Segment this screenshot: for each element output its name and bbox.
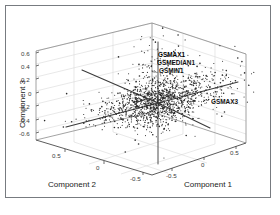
scatter-point: [136, 107, 137, 108]
scatter-point: [135, 124, 136, 125]
scatter-point: [113, 111, 115, 113]
point-label-gsmedian1: GSMEDIAN1: [157, 59, 195, 66]
scatter-point: [146, 98, 147, 99]
scatter-point: [155, 121, 156, 122]
scatter-point: [152, 91, 154, 93]
scatter-point: [199, 55, 200, 56]
scatter-point: [174, 82, 175, 83]
scatter-point: [214, 82, 216, 84]
scatter-point: [161, 115, 163, 117]
scatter-point: [215, 87, 216, 88]
scatter-point: [216, 113, 217, 114]
scatter-point: [150, 98, 151, 99]
scatter-point: [175, 97, 176, 98]
scatter-point: [123, 104, 125, 106]
scatter-point: [176, 82, 177, 83]
scatter-point: [148, 86, 149, 87]
scatter-point: [180, 118, 181, 119]
scatter-point: [83, 100, 84, 101]
scatter-point: [170, 92, 171, 93]
scatter-point: [184, 95, 186, 97]
scatter-point: [174, 113, 175, 114]
scatter-point: [153, 104, 154, 105]
scatter-point: [168, 114, 169, 115]
scatter-point: [187, 93, 189, 95]
scatter-point: [156, 93, 157, 94]
scatter-point: [120, 119, 121, 120]
scatter-point: [139, 68, 140, 69]
scatter-point: [152, 113, 153, 114]
scatter-point: [191, 105, 192, 106]
scatter-point: [149, 131, 150, 132]
axis-lines: [36, 140, 246, 175]
scatter-point: [173, 87, 174, 88]
scatter-point: [181, 88, 182, 89]
scatter-point: [216, 107, 217, 108]
y-tick-1: 0: [96, 164, 99, 171]
scatter-point: [190, 98, 191, 99]
scatter-point: [141, 36, 142, 37]
scatter-point: [143, 64, 144, 65]
scatter-point: [152, 123, 154, 125]
scatter-point: [193, 80, 194, 81]
scatter-point: [186, 107, 187, 108]
scatter-point: [102, 123, 103, 124]
scatter-point: [136, 110, 137, 111]
scatter-point: [144, 76, 145, 77]
scatter-point: [147, 108, 148, 109]
scatter-point: [126, 108, 127, 109]
scatter-point: [153, 93, 154, 94]
scatter-point: [183, 76, 184, 77]
scatter-point: [160, 119, 162, 121]
scatter-point: [120, 117, 122, 119]
scatter-point: [130, 92, 132, 94]
scatter-point: [164, 111, 165, 112]
scatter-point: [165, 80, 166, 81]
scatter-point: [210, 95, 211, 96]
scatter-point: [137, 91, 138, 92]
scatter-point: [155, 87, 156, 88]
scatter-point: [159, 104, 160, 105]
scatter-point: [149, 117, 150, 118]
scatter-point: [169, 91, 171, 93]
scatter-point: [145, 93, 146, 94]
scatter-point: [158, 96, 159, 97]
scatter-point: [173, 104, 174, 105]
scatter-point: [189, 114, 190, 115]
scatter-point: [131, 117, 132, 118]
scatter-point: [167, 99, 168, 100]
scatter-point: [203, 78, 204, 79]
scatter-point: [157, 49, 158, 50]
scatter-point: [200, 91, 202, 93]
scatter-point: [144, 109, 145, 110]
scatter-point: [158, 105, 159, 106]
scatter-point: [117, 113, 118, 114]
scatter-point: [157, 117, 158, 118]
scatter-point: [193, 112, 194, 113]
scatter-point: [177, 96, 178, 97]
scatter-point: [122, 119, 124, 121]
scatter-point: [176, 108, 177, 109]
scatter-point: [181, 98, 182, 99]
scatter-point: [106, 108, 107, 109]
scatter-point: [118, 108, 120, 110]
scatter-point: [174, 103, 175, 104]
scatter-point: [142, 67, 143, 68]
scatter-point: [105, 114, 106, 115]
scatter-point: [148, 91, 149, 92]
scatter-point: [173, 115, 174, 116]
scatter-point: [109, 119, 110, 120]
scatter-point: [63, 126, 65, 128]
scatter-point: [165, 85, 166, 86]
scatter-point: [150, 108, 151, 109]
scatter-point: [167, 78, 169, 80]
scatter-point: [151, 101, 152, 102]
scatter-point: [141, 113, 142, 114]
scatter-point: [152, 97, 154, 99]
scatter-point: [190, 92, 191, 93]
scatter-point: [118, 105, 119, 106]
scatter-point: [192, 95, 194, 97]
scatter-point: [76, 119, 77, 120]
scatter-point: [127, 104, 128, 105]
scatter-point: [204, 91, 205, 92]
